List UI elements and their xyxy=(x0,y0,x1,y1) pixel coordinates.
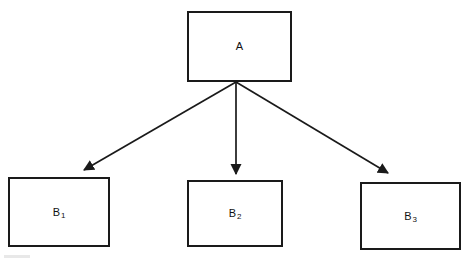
node-b1-label-subscript: 1 xyxy=(61,211,66,220)
node-b3-label-subscript: 3 xyxy=(412,215,417,224)
node-a: A xyxy=(187,11,292,82)
node-b3: B3 xyxy=(360,182,461,250)
edge-a-b3 xyxy=(236,82,388,173)
node-b2-label-main: B xyxy=(229,207,237,219)
node-a-label: A xyxy=(236,41,244,52)
edge-a-b1 xyxy=(84,82,236,170)
scan-artifact xyxy=(4,255,30,258)
node-a-label-main: A xyxy=(236,40,244,52)
node-b2-label-subscript: 2 xyxy=(237,212,242,221)
node-b1: B1 xyxy=(8,177,110,247)
node-b2-label: B2 xyxy=(229,208,241,219)
node-b3-label-main: B xyxy=(404,210,412,222)
node-b3-label: B3 xyxy=(404,211,416,222)
node-b2: B2 xyxy=(187,180,283,247)
diagram-canvas: A B1 B2 B3 xyxy=(0,0,471,266)
node-b1-label: B1 xyxy=(53,207,65,218)
node-b1-label-main: B xyxy=(53,206,61,218)
